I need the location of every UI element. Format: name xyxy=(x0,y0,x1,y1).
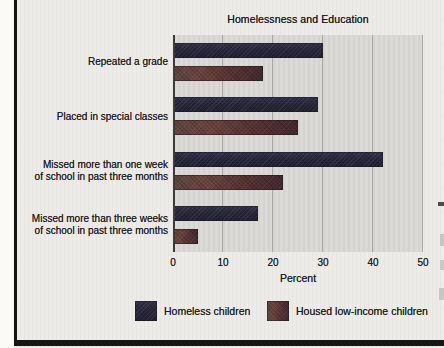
x-tick-label: 10 xyxy=(208,257,238,268)
bar-housed xyxy=(173,120,298,135)
chart-title: Homelessness and Education xyxy=(163,13,433,25)
legend-item: Housed low-income children xyxy=(267,300,428,322)
x-tick-label: 20 xyxy=(258,257,288,268)
legend-label: Housed low-income children xyxy=(296,305,428,317)
x-axis-label: Percent xyxy=(173,272,423,284)
page-bleed-mark xyxy=(440,234,444,246)
legend-label: Homeless children xyxy=(164,305,250,317)
legend-swatch xyxy=(135,301,157,321)
page-bleed-mark xyxy=(438,202,444,206)
bottom-border-rule xyxy=(14,340,444,346)
page-bleed-mark xyxy=(440,260,444,270)
bar-homeless xyxy=(173,43,323,58)
category-label: Missed more than three weeks of school i… xyxy=(10,198,168,252)
legend-item: Homeless children xyxy=(135,300,250,322)
page-bleed-mark xyxy=(439,288,444,300)
bar-homeless xyxy=(173,97,318,112)
gridline xyxy=(372,35,373,252)
bar-housed xyxy=(173,229,198,244)
book-page-figure: Homelessness and Education Repeated a gr… xyxy=(0,0,444,348)
bar-homeless xyxy=(173,206,258,221)
gridline xyxy=(272,35,273,252)
y-axis-line xyxy=(173,35,175,252)
x-tick-label: 30 xyxy=(308,257,338,268)
legend-swatch xyxy=(267,301,289,321)
plot-area xyxy=(173,35,423,252)
x-tick-label: 0 xyxy=(158,257,188,268)
category-label: Placed in special classes xyxy=(10,89,168,143)
gridline xyxy=(422,35,423,252)
x-tick-label: 40 xyxy=(358,257,388,268)
category-label: Missed more than one week of school in p… xyxy=(10,144,168,198)
bar-housed xyxy=(173,66,263,81)
category-label: Repeated a grade xyxy=(10,35,168,89)
bar-homeless xyxy=(173,152,383,167)
x-tick-label: 50 xyxy=(408,257,438,268)
bar-housed xyxy=(173,175,283,190)
gridline xyxy=(322,35,323,252)
